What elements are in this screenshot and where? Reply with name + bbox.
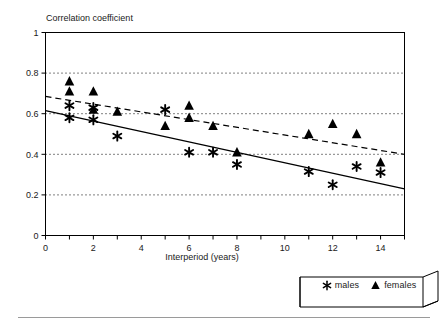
x-axis-title: Interperiod (years) — [0, 252, 404, 262]
x-tick-label: 10 — [280, 243, 290, 253]
axis-tick-labels: 00.20.40.60.8102468101214 — [26, 28, 386, 253]
y-tick-label: 0 — [33, 231, 38, 241]
marker-females — [184, 100, 194, 109]
legend-label-females: females — [384, 280, 416, 290]
x-tick-label: 2 — [91, 243, 96, 253]
marker-females — [328, 119, 338, 128]
marker-females — [65, 76, 75, 85]
trend-lines — [46, 96, 405, 188]
trend-line-females — [46, 96, 405, 154]
marker-females — [208, 121, 218, 130]
x-tick-label: 8 — [234, 243, 239, 253]
marker-females — [304, 129, 314, 138]
x-tick-label: 6 — [187, 243, 192, 253]
axis-ticks — [42, 33, 405, 240]
asterisk-icon — [322, 280, 332, 291]
marker-males — [89, 115, 97, 124]
y-tick-label: 0.8 — [26, 68, 39, 78]
x-tick-label: 4 — [139, 243, 144, 253]
marker-females — [65, 86, 75, 95]
marker-males — [185, 148, 193, 157]
marker-females — [89, 86, 99, 95]
marker-males — [329, 180, 337, 189]
legend-entries: males females — [312, 277, 426, 293]
legend-label-males: males — [335, 280, 360, 290]
marker-males — [113, 131, 121, 140]
plot-frame — [46, 33, 405, 236]
marker-males — [65, 113, 73, 122]
x-tick-label: 14 — [376, 243, 386, 253]
bottom-divider — [18, 317, 430, 318]
data-markers — [65, 76, 386, 189]
marker-males — [65, 101, 73, 110]
marker-females — [113, 106, 123, 115]
marker-males — [377, 168, 385, 177]
marker-females — [160, 121, 170, 130]
plot-border — [46, 33, 405, 236]
marker-males — [233, 160, 241, 169]
marker-males — [161, 105, 169, 114]
marker-males — [353, 162, 361, 171]
y-tick-label: 0.2 — [26, 190, 39, 200]
triangle-icon — [370, 280, 381, 291]
y-tick-label: 0.4 — [26, 150, 39, 160]
trend-line-males — [46, 111, 405, 189]
y-tick-label: 0.6 — [26, 109, 39, 119]
marker-males — [209, 148, 217, 157]
y-tick-label: 1 — [33, 28, 38, 38]
x-tick-label: 0 — [43, 243, 48, 253]
x-tick-label: 12 — [328, 243, 338, 253]
marker-females — [352, 129, 362, 138]
marker-females — [376, 157, 386, 166]
figure-container: Correlation coefficient 00.20.40.60.8102… — [0, 0, 448, 324]
